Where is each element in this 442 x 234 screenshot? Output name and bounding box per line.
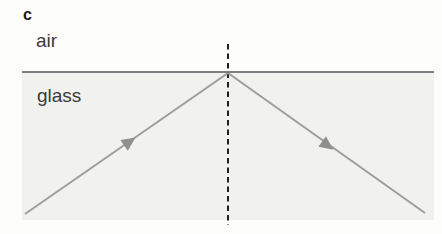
glass-medium-label: glass (37, 86, 81, 105)
total-internal-reflection-diagram: c air glass (0, 0, 442, 234)
diagram-canvas (0, 0, 442, 234)
air-medium-label: air (36, 31, 57, 50)
panel-label: c (23, 7, 32, 23)
